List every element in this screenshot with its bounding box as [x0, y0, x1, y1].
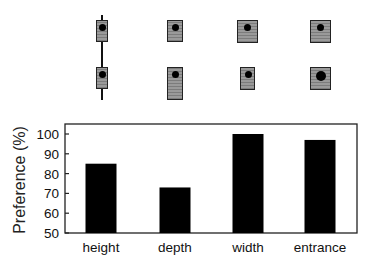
y-tick-label: 90 [44, 147, 59, 162]
bar-height [86, 164, 117, 233]
bar-depth [160, 187, 191, 233]
bar-entrance [305, 140, 336, 233]
x-tick-label: width [231, 240, 264, 255]
y-axis-label: Preference (%) [11, 126, 28, 234]
bar-chart: 5060708090100heightdepthwidthentrancePre… [0, 0, 372, 262]
y-tick-label: 100 [36, 127, 59, 142]
y-tick-label: 50 [44, 226, 59, 241]
x-tick-label: entrance [294, 240, 347, 255]
x-tick-label: height [83, 240, 120, 255]
x-tick-label: depth [158, 240, 192, 255]
y-tick-label: 80 [44, 167, 59, 182]
y-tick-label: 60 [44, 206, 59, 221]
bar-width [233, 134, 264, 233]
y-tick-label: 70 [44, 186, 59, 201]
